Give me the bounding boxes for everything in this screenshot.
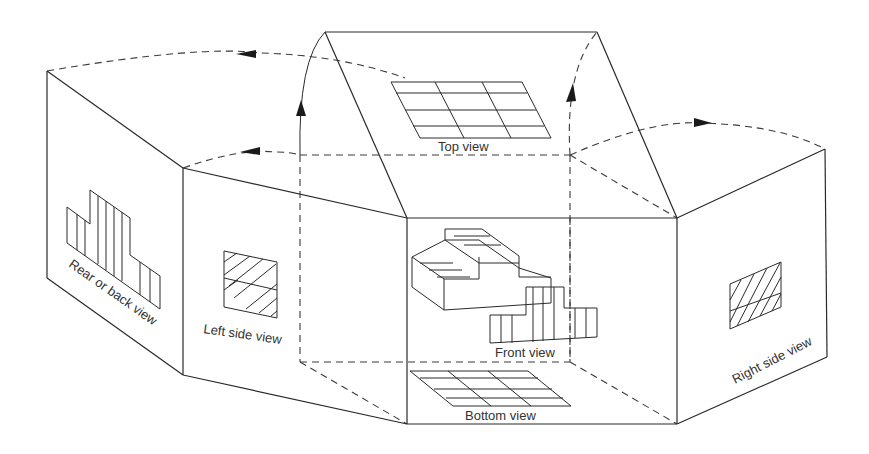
- front-view-label: Front view: [495, 345, 556, 360]
- isometric-object: [412, 229, 551, 310]
- arrowhead-icon: [694, 118, 712, 127]
- left-view-hatch: [224, 251, 277, 318]
- bottom-view-label: Bottom view: [465, 408, 536, 423]
- rear-panel: Rear or back view: [47, 71, 183, 375]
- right-view-hatch: [730, 262, 781, 329]
- front-view-profile: [490, 287, 597, 343]
- arrowhead-icon: [240, 147, 260, 155]
- left-side-panel: Left side view: [183, 168, 407, 424]
- right-side-view-label: Right side view: [730, 333, 815, 386]
- top-view-label: Top view: [438, 139, 489, 154]
- right-side-panel: Right side view: [677, 149, 827, 424]
- arrowhead-icon: [566, 83, 576, 102]
- arrowhead-icon: [296, 100, 306, 116]
- front-panel: Front view Bottom view: [407, 218, 677, 424]
- left-side-view-label: Left side view: [203, 321, 284, 347]
- hidden-box-edges: [300, 155, 677, 424]
- glass-box-diagram: Top view Rear or back view: [0, 0, 869, 454]
- fold-arrows: [47, 32, 825, 168]
- top-view-grid: [391, 82, 551, 138]
- bottom-view-grid: [410, 371, 571, 406]
- top-panel: Top view: [325, 32, 677, 218]
